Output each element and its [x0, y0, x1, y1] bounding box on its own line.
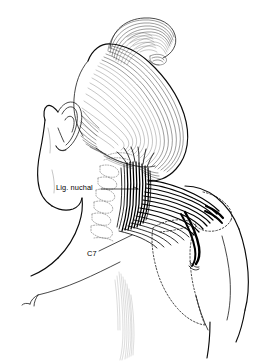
back-midline-region: [115, 272, 134, 360]
c7-leader: [99, 235, 132, 251]
label-lig-nuchal: Lig. nuchal: [56, 184, 93, 191]
anatomy-illustration: [0, 0, 276, 364]
scapula-region: [152, 192, 232, 325]
anatomical-figure: Lig. nuchal C7: [0, 0, 276, 364]
hair-bun-region: [108, 18, 176, 65]
label-c7: C7: [87, 250, 97, 257]
